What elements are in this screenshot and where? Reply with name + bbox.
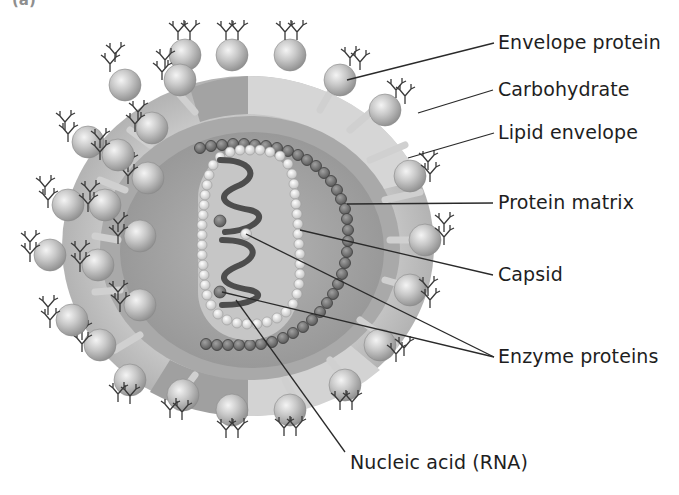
leader-lipid-envelope [408, 133, 494, 158]
label-enzyme-proteins: Enzyme proteins [498, 345, 658, 367]
leader-envelope-protein [347, 43, 494, 80]
label-protein-matrix: Protein matrix [498, 191, 634, 213]
label-capsid: Capsid [498, 263, 563, 285]
label-nucleic-acid: Nucleic acid (RNA) [350, 451, 528, 473]
label-envelope-protein: Envelope protein [498, 31, 661, 53]
label-carbohydrate: Carbohydrate [498, 78, 630, 100]
leader-carbohydrate [418, 90, 493, 113]
virus-diagram [0, 0, 679, 495]
label-lipid-envelope: Lipid envelope [498, 121, 638, 143]
